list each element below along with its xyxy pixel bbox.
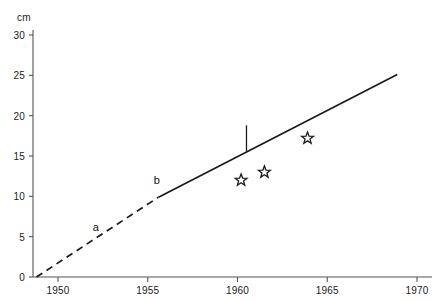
x-axis-tick-label: 1960 [226,285,249,296]
x-axis-tick-label: 1965 [316,285,339,296]
data-point-star-marker [235,174,247,185]
plot-area [0,0,437,300]
x-axis-tick-label: 1970 [405,285,428,296]
axes-group [29,30,432,282]
trend-line-segment-a [36,197,158,277]
y-axis-tick-label: 30 [0,30,25,41]
y-axis-tick-label: 0 [0,272,25,283]
segment-label-a: a [93,221,99,233]
chart-figure: cm 05101520253019501955196019651970ab [0,0,437,300]
y-axis-tick-label: 15 [0,151,25,162]
x-axis-tick-label: 1950 [46,285,69,296]
data-point-star-marker [259,166,271,177]
trend-line-segment-b [159,75,398,198]
y-axis-tick-label: 10 [0,191,25,202]
y-axis-tick-label: 25 [0,70,25,81]
data-point-star-marker [302,132,314,143]
segment-label-b: b [154,174,160,186]
y-axis-tick-label: 20 [0,110,25,121]
y-axis-tick-label: 5 [0,231,25,242]
x-axis-tick-label: 1955 [136,285,159,296]
data-series-group [36,75,397,277]
